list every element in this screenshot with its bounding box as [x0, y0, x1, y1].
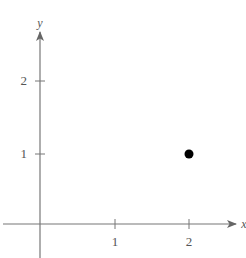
y-tick-label-2: 2: [21, 73, 28, 88]
data-point: [185, 150, 194, 159]
x-tick-label-2: 2: [186, 234, 193, 249]
x-tick-label-1: 1: [112, 234, 119, 249]
y-axis-label: y: [36, 16, 43, 30]
x-axis-label: x: [240, 217, 246, 231]
y-tick-label-1: 1: [21, 146, 28, 161]
coordinate-plane: 1 2 1 2 y x: [0, 0, 246, 258]
